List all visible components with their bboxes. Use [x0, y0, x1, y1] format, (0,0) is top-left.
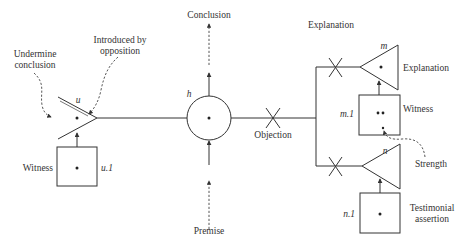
testimonial-label-line2: assertion — [415, 214, 449, 224]
testimonial-label-line1: Testimonial — [410, 203, 455, 213]
explanation-top-label: Explanation — [308, 20, 354, 30]
strength-label: Strength — [415, 159, 447, 169]
node-m1-label: m.1 — [340, 109, 354, 119]
node-h-label: h — [187, 89, 192, 99]
node-u1-label: u.1 — [101, 163, 113, 173]
witness-right-label: Witness — [403, 104, 434, 114]
node-u-label: u — [76, 95, 81, 105]
node-n1-label: n.1 — [343, 209, 355, 219]
introduced-label-line1: Introduced by — [93, 35, 146, 45]
undermine-label-line2: conclusion — [14, 60, 55, 70]
witness-left-label: Witness — [23, 163, 54, 173]
node-n-label: n — [383, 146, 388, 156]
introduced-arrow — [89, 57, 118, 114]
undermine-label-line1: Undermine — [14, 49, 57, 59]
premise-label: Premise — [194, 226, 225, 236]
witness-box-m1 — [359, 95, 400, 135]
argument-diagram: Undermine conclusion Introduced by oppos… — [0, 0, 458, 246]
introduced-label-line2: opposition — [100, 46, 140, 56]
node-m-label: m — [381, 41, 388, 51]
undermine-arrow — [34, 73, 51, 117]
conclusion-label: Conclusion — [187, 10, 231, 20]
testimony-node-n — [362, 144, 400, 189]
objection-label: Objection — [254, 130, 292, 140]
explanation-right-label: Explanation — [403, 63, 449, 73]
